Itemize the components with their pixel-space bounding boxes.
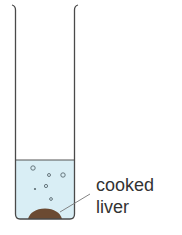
label-liver: liver — [96, 197, 129, 218]
test-tube-figure — [0, 0, 182, 235]
label-cooked: cooked — [96, 175, 154, 196]
bubble-small — [34, 188, 36, 190]
test-tube-diagram: cooked liver — [0, 0, 182, 235]
